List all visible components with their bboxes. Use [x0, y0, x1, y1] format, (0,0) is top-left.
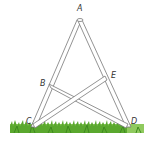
label-b: B	[40, 79, 46, 88]
a-frame-diagram: A B C D E	[0, 0, 152, 145]
apex-cap	[77, 19, 83, 22]
label-a: A	[76, 4, 82, 13]
beam-a-d	[78, 20, 131, 127]
label-d: D	[131, 117, 137, 126]
label-c: C	[26, 117, 32, 126]
label-e: E	[111, 71, 117, 80]
